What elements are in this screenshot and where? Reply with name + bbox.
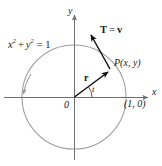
point-p-label: P(x, y): [114, 58, 141, 68]
y-axis-label: y: [68, 6, 72, 16]
equation-equals-one: = 1: [34, 39, 51, 50]
tangent-equals-symbol: =: [107, 24, 117, 35]
tangent-vector-label: T=v: [100, 25, 122, 36]
origin-label: 0: [64, 100, 69, 110]
unit-point-label: (1, 0): [124, 99, 146, 109]
x-axis-label: x: [152, 87, 156, 97]
circle-direction-arrow: [24, 74, 32, 94]
figure-container: y x x2+y2= 1 T=v P(x, y) r t 0 (1, 0): [0, 0, 162, 166]
tangent-T-symbol: T: [100, 24, 107, 35]
circle-equation-label: x2+y2= 1: [8, 38, 51, 50]
angle-label: t: [92, 85, 95, 94]
tangent-vector-arrow: [91, 35, 110, 69]
radius-vector-label: r: [84, 73, 88, 83]
equation-plus: +: [16, 39, 26, 50]
tangent-v-symbol: v: [117, 24, 122, 35]
diagram-canvas: [0, 0, 162, 166]
